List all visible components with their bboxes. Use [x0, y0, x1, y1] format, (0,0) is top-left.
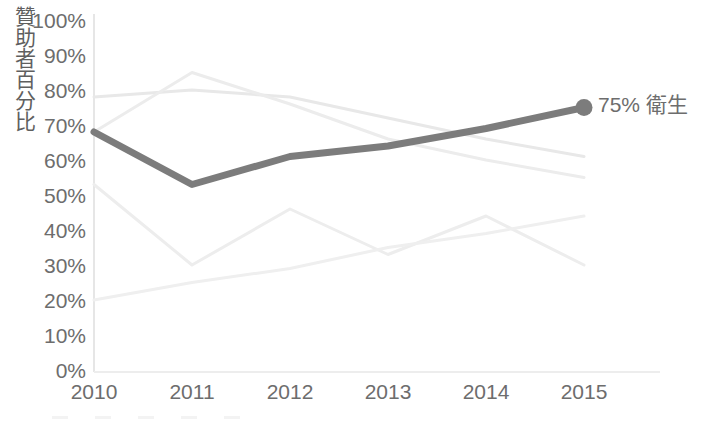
series-line-muted — [94, 185, 584, 266]
legend-item[interactable] — [138, 416, 159, 419]
legend-swatch-icon — [138, 416, 154, 419]
axis-lines — [94, 14, 660, 372]
legend-swatch-icon — [224, 416, 240, 419]
chart-legend — [52, 409, 652, 425]
legend-swatch-icon — [52, 416, 68, 419]
legend-item[interactable] — [95, 416, 116, 419]
endpoint-marker-dot — [576, 99, 593, 116]
series-line-highlighted — [94, 108, 584, 185]
legend-item[interactable] — [181, 416, 202, 419]
series-line-muted — [94, 216, 584, 300]
plot-area — [0, 0, 707, 429]
endpoint-callout-label: 75% 衛生 — [598, 92, 688, 118]
data-series-group — [94, 73, 584, 301]
endpoint-marker-group — [576, 99, 593, 116]
legend-swatch-icon — [95, 416, 111, 419]
legend-swatch-icon — [181, 416, 197, 419]
legend-item[interactable] — [224, 416, 245, 419]
legend-item[interactable] — [52, 416, 73, 419]
line-chart: 贊助者百分比 100%90%80%70%60%50%40%30%20%10%0%… — [0, 0, 707, 429]
